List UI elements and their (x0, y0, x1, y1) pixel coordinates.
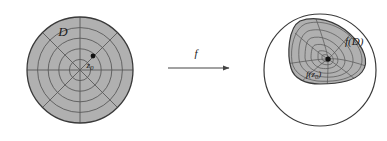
figure-canvas: D z0 f (0, 0, 387, 141)
arrow-group: f (168, 47, 229, 68)
domain-panel: D z0 (27, 17, 133, 123)
map-arrow-label: f (194, 47, 199, 59)
f-of-z0-point (325, 56, 330, 61)
codomain-panel: f(D) f(z0) (264, 14, 376, 126)
z0-point (91, 54, 96, 59)
domain-label: D (57, 24, 68, 39)
figure-root: D z0 f (0, 0, 387, 141)
f-of-z0-label: f(z0) (306, 69, 321, 80)
image-region-label: f(D) (345, 35, 364, 48)
